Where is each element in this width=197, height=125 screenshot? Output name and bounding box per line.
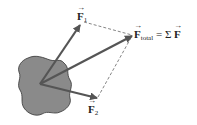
label-ftotal: Ftotal = Σ F xyxy=(134,29,181,42)
f1-symbol: F xyxy=(77,11,84,22)
sum-f-symbol: F xyxy=(174,29,181,40)
f2-symbol: F xyxy=(88,104,95,115)
force-diagram xyxy=(0,0,197,125)
label-f2: F2 xyxy=(88,104,98,117)
dashed-line-f1-total xyxy=(84,22,132,35)
ftotal-subscript: total xyxy=(141,34,153,42)
equals-sum-text: = Σ xyxy=(153,28,174,40)
ftotal-symbol: F xyxy=(134,29,141,40)
f2-subscript: 2 xyxy=(95,109,99,117)
f1-subscript: 1 xyxy=(84,16,88,24)
label-f1: F1 xyxy=(77,11,87,24)
